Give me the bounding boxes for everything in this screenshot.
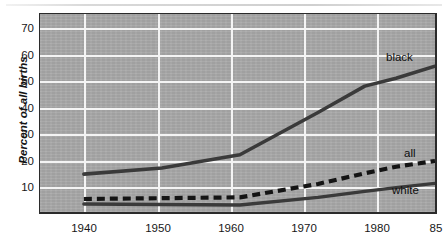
x-tick-label-1940: 1940 [59, 222, 109, 234]
series-line-all [84, 161, 435, 199]
series-label-all: all [404, 147, 416, 159]
plot-area: black all white [39, 13, 437, 214]
series-label-black: black [386, 51, 413, 63]
x-tick-label-1980: 1980 [352, 222, 402, 234]
y-tick-label-30: 30 [4, 128, 34, 140]
y-tick-label-60: 60 [4, 49, 34, 61]
x-tick-label-1950: 1950 [133, 222, 183, 234]
series-layer [40, 14, 435, 212]
y-tick-label-70: 70 [4, 22, 34, 34]
series-label-white: white [392, 184, 419, 196]
x-tick-label-1960: 1960 [206, 222, 256, 234]
y-tick-label-20: 20 [4, 155, 34, 167]
y-tick-label-10: 10 [4, 181, 34, 193]
x-tick-label-85: 85 [414, 222, 447, 234]
y-tick-label-40: 40 [4, 102, 34, 114]
y-tick-label-50: 50 [4, 75, 34, 87]
series-line-black [84, 66, 435, 174]
chart-figure: Percent of all births 70 60 50 40 30 20 … [0, 0, 447, 244]
x-tick-label-1970: 1970 [279, 222, 329, 234]
